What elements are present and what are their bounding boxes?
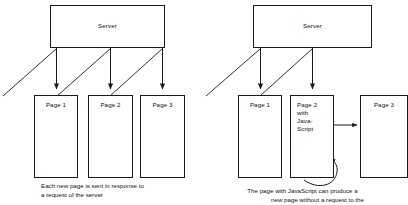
- page-box-right-page-3: Page 3: [360, 95, 408, 178]
- page-box-left-page-2: Page 2: [88, 95, 133, 178]
- page-label-right-page-1: Page 1: [239, 101, 281, 109]
- caption-left-line-1: Each new page is sent in response to: [41, 182, 191, 191]
- server-box-right: Server: [253, 5, 372, 48]
- caption-left-line-2: a request of the server: [41, 191, 191, 200]
- page-box-right-page-2-javascript: Page 2 with Java- Script: [290, 95, 334, 178]
- page-box-left-page-1: Page 1: [34, 95, 78, 178]
- page-label-left-page-1: Page 1: [35, 101, 77, 109]
- page-box-left-page-3: Page 3: [140, 95, 185, 178]
- page-label-right-page-2-javascript: Page 2 with Java- Script: [297, 101, 317, 133]
- right-panel-down-arrows: [261, 48, 313, 89]
- page-box-right-page-1: Page 1: [238, 95, 282, 178]
- page-label-left-page-2: Page 2: [89, 101, 132, 109]
- server-label-left: Server: [51, 22, 164, 30]
- left-panel-request-diagonals: [3, 49, 162, 96]
- server-box-left: Server: [50, 5, 165, 48]
- right-panel-request-diagonals: [206, 49, 312, 96]
- server-label-right: Server: [254, 22, 371, 30]
- page-label-left-page-3: Page 3: [141, 101, 184, 109]
- page-label-right-page-3: Page 3: [361, 101, 407, 109]
- caption-right-line-1: The page with JavaScript can produce a: [215, 187, 390, 196]
- caption-right-line-2: new page without a request to the: [230, 196, 405, 205]
